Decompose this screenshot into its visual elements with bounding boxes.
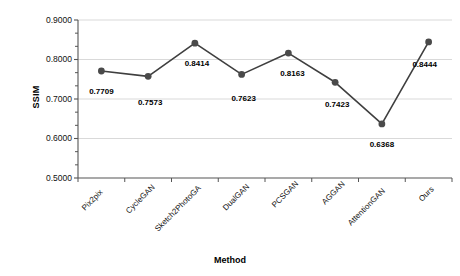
data-point-label: 0.8444 xyxy=(408,60,442,69)
data-point-marker xyxy=(191,40,198,47)
y-tick-label: 0.8000 xyxy=(26,54,72,64)
data-point-marker xyxy=(98,68,105,75)
ssim-line-chart: SSIM 0.90000.80000.70000.60000.5000 Pix2… xyxy=(0,0,460,276)
data-point-label: 0.6368 xyxy=(365,140,399,149)
y-axis-ticks xyxy=(74,20,78,178)
data-point-marker xyxy=(285,50,292,57)
data-point-marker xyxy=(378,121,385,128)
series-line-ssim xyxy=(101,42,428,124)
x-axis-ticks xyxy=(78,178,452,182)
data-point-label: 0.8414 xyxy=(180,59,214,68)
data-point-marker xyxy=(238,71,245,78)
y-tick-label: 0.7000 xyxy=(26,94,72,104)
x-axis-title: Method xyxy=(0,255,460,265)
series-markers xyxy=(98,39,432,128)
data-point-label: 0.7709 xyxy=(84,87,118,96)
y-tick-label: 0.6000 xyxy=(26,133,72,143)
y-tick-label: 0.9000 xyxy=(26,15,72,25)
data-point-label: 0.7573 xyxy=(133,98,167,107)
data-point-marker xyxy=(332,79,339,86)
data-point-label: 0.7623 xyxy=(227,94,261,103)
y-tick-label: 0.5000 xyxy=(26,173,72,183)
data-point-label: 0.7423 xyxy=(320,100,354,109)
data-point-marker xyxy=(145,73,152,80)
data-point-label: 0.8163 xyxy=(275,69,309,78)
data-point-marker xyxy=(425,39,432,46)
